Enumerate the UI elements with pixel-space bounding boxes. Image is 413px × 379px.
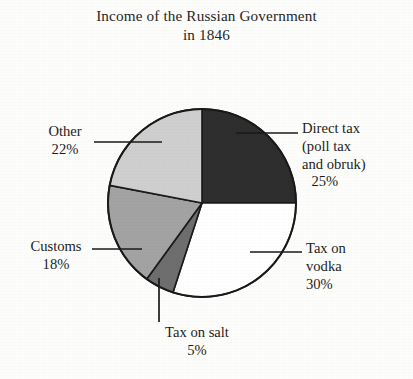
pie-label-tax-on-vodka-line-1: Tax on — [306, 240, 359, 258]
pie-label-tax-on-salt-line-1: Tax on salt — [122, 324, 272, 342]
pie-label-tax-on-salt-percent: 5% — [122, 342, 272, 360]
pie-label-tax-on-salt: Tax on salt 5% — [122, 324, 272, 360]
pie-label-direct-tax-line-3: and obruk) — [302, 156, 366, 174]
pie-label-other-percent: 22% — [22, 141, 108, 159]
pie-label-direct-tax: Direct tax (poll tax and obruk) 25% — [302, 120, 366, 191]
chart-plot-area: Direct tax (poll tax and obruk) 25% Tax … — [0, 0, 413, 379]
pie-slice-direct-tax[interactable] — [202, 109, 296, 203]
pie-label-customs-line-1: Customs — [4, 238, 108, 256]
pie-chart-figure: Income of the Russian Government in 1846 — [0, 0, 413, 379]
pie-label-customs: Customs 18% — [4, 238, 108, 274]
pie-label-direct-tax-percent: 25% — [302, 173, 366, 191]
pie-label-other-line-1: Other — [22, 123, 108, 141]
pie-label-customs-percent: 18% — [4, 256, 108, 274]
pie-label-other: Other 22% — [22, 123, 108, 159]
pie-label-tax-on-vodka-line-2: vodka — [306, 258, 359, 276]
pie-label-tax-on-vodka: Tax on vodka 30% — [306, 240, 359, 293]
pie-label-tax-on-vodka-percent: 30% — [306, 276, 359, 294]
pie-label-direct-tax-line-1: Direct tax — [302, 120, 366, 138]
pie-label-direct-tax-line-2: (poll tax — [302, 138, 366, 156]
